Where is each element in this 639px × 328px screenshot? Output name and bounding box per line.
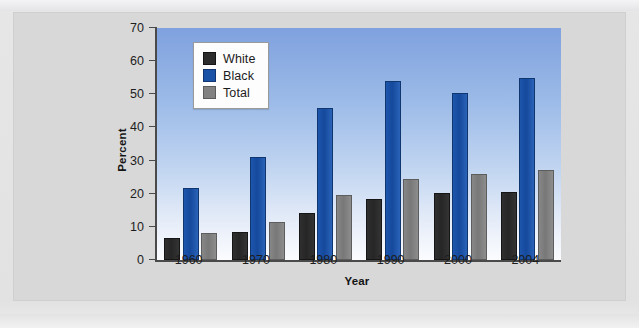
y-axis-tick: 50: [149, 93, 157, 94]
bar-black-1990: [385, 81, 401, 260]
y-axis-tick-label: 10: [130, 220, 144, 234]
legend-item-black: Black: [203, 67, 255, 84]
bar-white-1990: [366, 199, 382, 260]
chart-legend: WhiteBlackTotal: [193, 42, 269, 109]
y-axis-tick: 40: [149, 126, 157, 127]
bar-white-2000: [434, 193, 450, 260]
page-top-edge: [0, 0, 639, 11]
y-axis-tick-label: 70: [130, 21, 144, 35]
y-axis-tick: 70: [149, 27, 157, 28]
legend-label-black: Black: [223, 69, 254, 83]
plot-area: 010203040506070 WhiteBlackTotal: [155, 28, 561, 262]
y-axis-tick: 20: [149, 193, 157, 194]
bar-total-1990: [403, 179, 419, 260]
legend-swatch-total-icon: [203, 86, 216, 99]
y-axis-tick: 30: [149, 160, 157, 161]
y-axis-tick: 0: [149, 259, 157, 260]
legend-item-white: White: [203, 50, 255, 67]
legend-swatch-white-icon: [203, 52, 216, 65]
y-axis-tick: 60: [149, 60, 157, 61]
bar-total-2004: [538, 170, 554, 260]
bar-total-1970: [269, 222, 285, 260]
x-axis-tick-label-1990: 1990: [377, 253, 405, 267]
legend-label-white: White: [223, 52, 255, 66]
bar-black-1970: [250, 157, 266, 260]
chart-figure: Percent 010203040506070 WhiteBlackTotal …: [14, 13, 625, 300]
bar-total-1980: [336, 195, 352, 260]
y-axis-tick-label: 0: [137, 253, 144, 267]
y-axis-tick-label: 60: [130, 54, 144, 68]
y-axis-tick-label: 30: [130, 154, 144, 168]
x-axis-tick-label-1960: 1960: [175, 253, 203, 267]
page-bottom-edge: [0, 314, 639, 328]
y-axis-tick-label: 40: [130, 120, 144, 134]
x-axis-title: Year: [155, 275, 559, 287]
x-axis-tick-label-2000: 2000: [444, 253, 472, 267]
x-axis-tick-label-2004: 2004: [511, 253, 539, 267]
y-axis-tick-label: 50: [130, 87, 144, 101]
bar-black-1960: [183, 188, 199, 260]
legend-label-total: Total: [223, 86, 250, 100]
y-axis-tick-label: 20: [130, 187, 144, 201]
bar-black-2000: [452, 93, 468, 260]
bar-white-2004: [501, 192, 517, 260]
legend-swatch-black-icon: [203, 69, 216, 82]
y-axis-tick: 10: [149, 226, 157, 227]
x-axis-tick-label-1970: 1970: [242, 253, 270, 267]
bar-total-2000: [471, 174, 487, 260]
bar-black-2004: [519, 78, 535, 260]
x-axis-tick-label-1980: 1980: [309, 253, 337, 267]
bar-total-1960: [201, 233, 217, 261]
legend-item-total: Total: [203, 84, 255, 101]
bar-black-1980: [317, 108, 333, 260]
y-axis-title: Percent: [116, 128, 128, 172]
